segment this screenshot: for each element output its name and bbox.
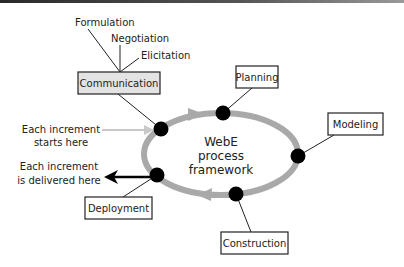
deployment-label: Deployment (88, 203, 149, 214)
formulation-label: Formulation (75, 17, 135, 28)
center-label-line3: framework (189, 163, 254, 177)
modeling-label: Modeling (333, 119, 379, 130)
deployment-box: Deployment (85, 197, 152, 219)
planning-label: Planning (235, 72, 278, 83)
construction-node (229, 187, 244, 202)
deployment-node (150, 168, 165, 183)
center-label-line1: WebE (204, 135, 238, 149)
communication-box: Communication (78, 72, 160, 94)
increment-delivered-label-line1: Each increment (20, 161, 98, 172)
construction-label: Construction (223, 238, 287, 249)
webe-process-diagram: WebE process framework Formulation Negot… (0, 0, 404, 267)
negotiation-label: Negotiation (111, 33, 169, 44)
increment-start-label-line1: Each increment (22, 124, 100, 135)
loop-arrow-bottom-icon (197, 188, 212, 201)
planning-node (216, 106, 231, 121)
loop-arrow-top-icon (188, 108, 204, 121)
communication-node (154, 122, 169, 137)
elicitation-leader (120, 58, 139, 72)
increment-start-label-line2: starts here (34, 137, 88, 148)
elicitation-label: Elicitation (141, 50, 190, 61)
increment-delivered-label-line2: is delivered here (17, 175, 100, 186)
communication-connector (118, 94, 161, 129)
planning-box: Planning (235, 66, 278, 88)
construction-box: Construction (221, 232, 288, 254)
modeling-box: Modeling (328, 113, 383, 135)
modeling-node (291, 149, 306, 164)
communication-label: Communication (80, 78, 159, 89)
center-label-line2: process (198, 149, 244, 163)
